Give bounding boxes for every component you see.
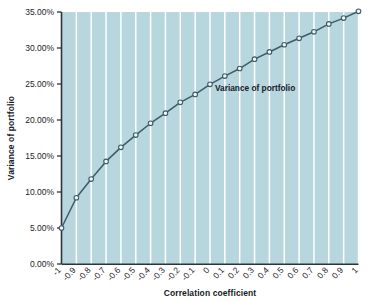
data-point-marker <box>148 121 153 126</box>
y-axis-title: Variance of portfolio <box>6 96 16 180</box>
data-point-marker <box>312 30 317 35</box>
data-point-marker <box>267 50 272 55</box>
data-point-marker <box>193 92 198 97</box>
data-point-marker <box>59 226 64 231</box>
y-tick-label: 20.00% <box>25 115 54 125</box>
y-tick-label: 15.00% <box>25 151 54 161</box>
data-point-marker <box>252 57 257 62</box>
y-tick-label: 10.00% <box>25 187 54 197</box>
y-tick-label: 35.00% <box>25 7 54 17</box>
data-point-marker <box>341 16 346 21</box>
data-point-marker <box>327 22 332 27</box>
data-point-marker <box>208 82 213 87</box>
data-point-marker <box>133 133 138 138</box>
series-annotation-label: Variance of portfolio <box>215 83 295 93</box>
y-tick-label: 25.00% <box>25 79 54 89</box>
data-point-marker <box>89 177 94 182</box>
data-point-marker <box>163 111 168 116</box>
x-axis-title: Correlation coefficient <box>164 288 257 298</box>
data-point-marker <box>104 159 109 164</box>
data-point-marker <box>297 36 302 41</box>
y-tick-label: 30.00% <box>25 43 54 53</box>
data-point-marker <box>74 195 79 200</box>
y-tick-label: 5.00% <box>30 223 55 233</box>
data-point-marker <box>223 74 228 79</box>
variance-vs-correlation-line-chart: 0.00%5.00%10.00%15.00%20.00%25.00%30.00%… <box>0 0 369 302</box>
data-point-marker <box>237 66 242 71</box>
data-point-marker <box>356 9 361 14</box>
data-point-marker <box>119 145 124 150</box>
y-tick-label: 0.00% <box>30 259 55 269</box>
chart-figure: 0.00%5.00%10.00%15.00%20.00%25.00%30.00%… <box>0 0 369 302</box>
data-point-marker <box>178 100 183 105</box>
data-point-marker <box>282 42 287 47</box>
